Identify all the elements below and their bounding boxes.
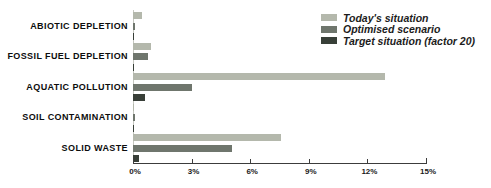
legend-item-today-s-situation: Today's situation [321, 12, 475, 24]
x-axis-tick-label-15: 15% [420, 167, 436, 176]
x-axis-tick-15 [426, 158, 427, 163]
x-axis-tick-label-6: 6% [246, 167, 258, 176]
bar-today-s-situation-abiotic-depletion [133, 12, 142, 19]
category-label-aquatic-pollution: AQUATIC POLLUTION [0, 82, 128, 93]
legend-item-optimised-scenario: Optimised scenario [321, 24, 475, 36]
x-axis-tick-9 [309, 159, 310, 163]
bar-today-s-situation-solid-waste [133, 134, 281, 141]
bar-optimised-scenario-fossil-fuel-depletion [133, 53, 148, 60]
legend-swatch-target-situation-factor-20 [321, 37, 337, 44]
legend-label-optimised-scenario: Optimised scenario [343, 23, 440, 35]
x-axis-tick-label-3: 3% [188, 167, 200, 176]
x-axis-tick-3 [192, 159, 193, 163]
x-axis-tick-6 [250, 159, 251, 163]
bar-optimised-scenario-abiotic-depletion [133, 23, 135, 30]
category-label-solid-waste: SOLID WASTE [0, 143, 128, 154]
bar-optimised-scenario-soil-contamination [133, 114, 135, 121]
legend: Today's situationOptimised scenarioTarge… [321, 12, 475, 47]
x-axis-line [133, 163, 427, 164]
bar-target-situation-factor-20-aquatic-pollution [133, 94, 145, 101]
bar-today-s-situation-fossil-fuel-depletion [133, 43, 151, 50]
bar-optimised-scenario-aquatic-pollution [133, 84, 192, 91]
x-axis-tick-label-12: 12% [361, 167, 377, 176]
bar-target-situation-factor-20-fossil-fuel-depletion [133, 64, 134, 71]
legend-label-today-s-situation: Today's situation [343, 12, 429, 24]
bar-target-situation-factor-20-soil-contamination [133, 125, 134, 132]
category-label-abiotic-depletion: ABIOTIC DEPLETION [0, 21, 128, 32]
legend-item-target-situation-factor-20: Target situation (factor 20) [321, 35, 475, 47]
legend-swatch-today-s-situation [321, 14, 337, 21]
x-axis-tick-12 [367, 159, 368, 163]
bar-today-s-situation-aquatic-pollution [133, 73, 385, 80]
bar-today-s-situation-soil-contamination [133, 104, 134, 111]
category-label-soil-contamination: SOIL CONTAMINATION [0, 112, 128, 123]
x-axis-tick-0 [133, 158, 134, 163]
category-label-fossil-fuel-depletion: FOSSIL FUEL DEPLETION [0, 51, 128, 62]
legend-swatch-optimised-scenario [321, 26, 337, 33]
legend-label-target-situation-factor-20: Target situation (factor 20) [343, 35, 475, 47]
x-axis-tick-label-0: 0% [129, 167, 141, 176]
bar-target-situation-factor-20-abiotic-depletion [133, 33, 134, 40]
x-axis-tick-label-9: 9% [305, 167, 317, 176]
chart-canvas: Today's situationOptimised scenarioTarge… [0, 0, 491, 188]
bar-optimised-scenario-solid-waste [133, 145, 232, 152]
